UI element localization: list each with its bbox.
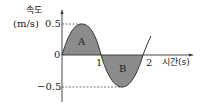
y-tick-0: 0	[54, 50, 60, 60]
y-axis-label: 속도	[26, 6, 42, 15]
region-a-label: A	[78, 37, 85, 47]
velocity-time-chart: 속도 (m/s) 0.5 0 −0.5 1 2 시간(s) A B	[0, 0, 203, 112]
y-tick-0.5: 0.5	[45, 19, 61, 29]
x-axis-label: 시간(s)	[162, 58, 190, 67]
x-axis-arrow-icon	[189, 54, 194, 57]
x-tick-1: 1	[96, 58, 102, 68]
chart-plot	[0, 0, 203, 112]
y-axis-unit: (m/s)	[13, 19, 39, 29]
region-b-label: B	[119, 64, 126, 74]
x-tick-2: 2	[146, 58, 152, 68]
y-tick-neg-0.5: −0.5	[37, 82, 61, 92]
y-axis-arrow-icon	[61, 9, 64, 14]
